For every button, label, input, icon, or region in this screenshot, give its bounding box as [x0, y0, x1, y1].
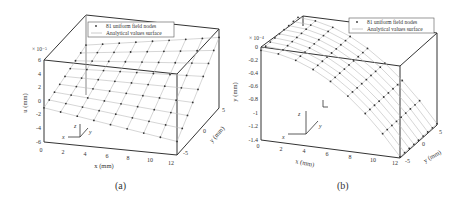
- x-axis-label-b: x (mm): [295, 157, 316, 169]
- chart-panel-b: 81 uniform field nodes Analytical values…: [227, 0, 454, 202]
- ytick: 0: [203, 128, 206, 134]
- xtick: 6: [106, 153, 109, 159]
- ytick: -5: [405, 158, 410, 164]
- z-scale-a: × 10⁻⁵: [32, 46, 47, 52]
- legend-nodes-b: 81 uniform field nodes: [367, 19, 417, 25]
- glyph-y: y: [318, 123, 322, 129]
- ztick: -0.6: [249, 83, 259, 89]
- ztick: -1: [253, 110, 258, 116]
- glyph-z: z: [73, 123, 77, 129]
- ztick: -2: [36, 111, 41, 117]
- ytick: 5: [439, 129, 442, 135]
- ztick: -0.2: [249, 57, 259, 63]
- legend-surface-b: Analytical values surface: [367, 26, 423, 32]
- z-scale-b: × 10⁻⁴: [249, 35, 264, 41]
- ztick: -6: [36, 139, 41, 145]
- legend-surface-a: Analytical values surface: [106, 30, 162, 36]
- ztick: -4: [36, 125, 41, 131]
- ztick: 4: [38, 71, 41, 77]
- glyph-y: y: [88, 129, 92, 135]
- xtick: 2: [280, 146, 283, 152]
- xtick: 8: [349, 154, 352, 160]
- ytick: -5: [183, 150, 188, 156]
- xtick: 0: [257, 143, 260, 149]
- ztick: 6: [38, 57, 41, 63]
- xtick: 12: [168, 160, 174, 166]
- chart-a-plot: 81 uniform field nodes Analytical values…: [0, 0, 227, 202]
- y-axis-label-b: y (mm): [422, 148, 443, 165]
- xtick: 10: [147, 157, 153, 163]
- xtick: 2: [62, 149, 65, 155]
- z-axis-label-b: y (mm): [231, 82, 239, 101]
- ytick: 5: [222, 107, 225, 113]
- x-axis-label-a: x (mm): [94, 162, 113, 170]
- ytick: 0: [422, 141, 425, 147]
- glyph-x: x: [281, 134, 285, 140]
- xtick: 4: [84, 151, 87, 157]
- ztick: -0.4: [249, 70, 259, 76]
- xtick: 8: [127, 155, 130, 161]
- ztick: 2: [38, 84, 41, 90]
- ztick: -0.8: [249, 96, 259, 102]
- xtick: 4: [303, 148, 306, 154]
- ztick: 0: [38, 98, 41, 104]
- ztick: -1.2: [249, 123, 259, 129]
- caption-a: (a): [115, 180, 126, 191]
- legend-nodes-a: 81 uniform field nodes: [106, 23, 156, 29]
- glyph-z: z: [297, 111, 301, 117]
- xtick: 12: [392, 160, 398, 166]
- xtick: 10: [370, 157, 376, 163]
- chart-panel-a: 81 uniform field nodes Analytical values…: [0, 0, 227, 202]
- xtick: 6: [326, 151, 329, 157]
- ztick: 0: [255, 44, 258, 50]
- z-axis-label-a: u (mm): [21, 93, 29, 112]
- xtick: 0: [40, 147, 43, 153]
- caption-b: (b): [337, 180, 349, 191]
- y-axis-label-a: y (mm): [208, 125, 227, 145]
- chart-b-plot: 81 uniform field nodes Analytical values…: [227, 0, 454, 202]
- glyph-x: x: [61, 134, 65, 140]
